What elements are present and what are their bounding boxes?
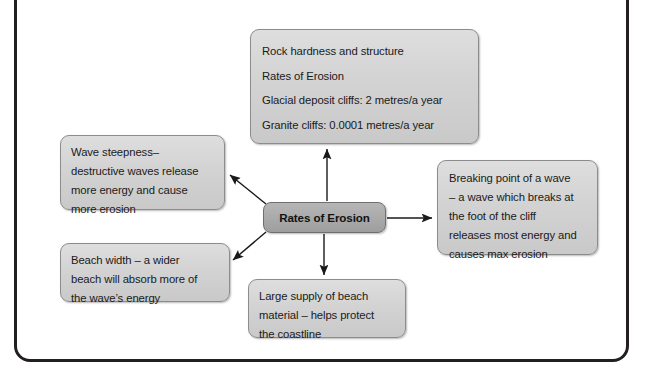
diagram-canvas: Rock hardness and structure Rates of Ero… bbox=[0, 0, 647, 384]
arrow-center-to-beach-width bbox=[233, 232, 266, 260]
node-line: Large supply of beach bbox=[259, 287, 396, 306]
node-wave-steepness[interactable]: Wave steepness– destructive waves releas… bbox=[60, 135, 225, 210]
node-beach-width[interactable]: Beach width – a wider beach will absorb … bbox=[60, 243, 230, 302]
node-center-rates-of-erosion[interactable]: Rates of Erosion bbox=[263, 202, 386, 233]
node-line: Granite cliffs: 0.0001 metres/a year bbox=[262, 113, 468, 138]
node-line: material – helps protect bbox=[259, 306, 396, 325]
node-line: – a wave which breaks at bbox=[449, 188, 589, 207]
center-node-label: Rates of Erosion bbox=[279, 208, 370, 227]
node-line: Wave steepness– bbox=[71, 143, 215, 162]
node-line: the foot of the cliff bbox=[449, 207, 589, 226]
node-breaking-point-of-a-wave[interactable]: Breaking point of a wave – a wave which … bbox=[437, 160, 598, 255]
node-line: Beach width – a wider bbox=[71, 251, 220, 270]
node-line: Glacial deposit cliffs: 2 metres/a year bbox=[262, 88, 468, 113]
node-rock-hardness-and-structure[interactable]: Rock hardness and structure Rates of Ero… bbox=[250, 29, 479, 144]
node-line: Rock hardness and structure bbox=[262, 39, 468, 64]
node-line: the wave’s energy bbox=[71, 289, 220, 308]
node-line: Breaking point of a wave bbox=[449, 169, 589, 188]
node-line: more energy and cause bbox=[71, 181, 215, 200]
node-large-supply-of-beach-material[interactable]: Large supply of beach material – helps p… bbox=[248, 279, 406, 338]
node-line: beach will absorb more of bbox=[71, 270, 220, 289]
arrow-center-to-wave-steepness bbox=[230, 175, 266, 204]
node-line: Rates of Erosion bbox=[262, 64, 468, 89]
node-line: the coastline bbox=[259, 325, 396, 344]
node-line: causes max erosion bbox=[449, 245, 589, 264]
node-line: more erosion bbox=[71, 200, 215, 219]
node-line: destructive waves release bbox=[71, 162, 215, 181]
node-line: releases most energy and bbox=[449, 226, 589, 245]
